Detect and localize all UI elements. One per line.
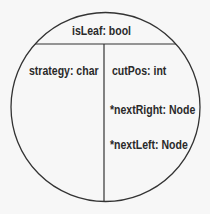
field-nextLeft: *nextLeft: Node (110, 137, 188, 153)
field-cutPos: cutPos: int (112, 63, 166, 79)
field-nextRight: *nextRight: Node (110, 102, 196, 118)
node-struct-diagram: isLeaf: bool strategy: char cutPos: int … (0, 0, 210, 214)
field-isLeaf: isLeaf: bool (72, 23, 131, 39)
field-strategy: strategy: char (29, 63, 99, 79)
